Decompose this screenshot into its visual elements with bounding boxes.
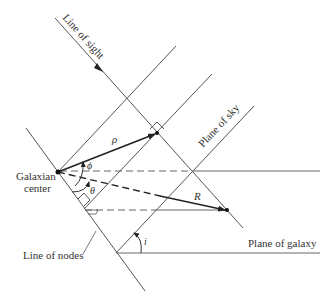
line-of-nodes-leader [83,231,96,254]
R-label: R [193,190,201,202]
R-vector-solid [160,196,225,210]
galaxian-center-label-line2: center [24,182,51,194]
sky-parallel-line-2 [84,74,212,209]
galaxian-center-dot [56,170,61,175]
diagram-canvas: Line of sight Plane of sky Galaxian cent… [0,0,336,308]
line-of-sight-label: Line of sight [61,11,108,61]
rho-label: ρ [111,133,117,145]
rho-endpoint-dot [155,131,159,135]
sky-parallel-line-1 [58,46,176,172]
plane-of-sky-label: Plane of sky [196,101,242,149]
galaxian-center-label-line1: Galaxian [16,170,56,182]
plane-of-sky-line [116,106,254,253]
right-angle-marker-rho [150,122,164,129]
rho-vector [58,134,155,172]
i-arc [134,233,141,253]
theta-label: θ [90,185,95,196]
galaxy-geometry-diagram: Line of sight Plane of sky Galaxian cent… [0,0,336,308]
theta-arc [72,182,89,192]
i-label: i [144,236,147,247]
phi-label: ϕ [87,160,92,171]
line-of-nodes-label: Line of nodes [23,249,83,261]
R-endpoint-dot [225,208,229,212]
plane-of-galaxy-label: Plane of galaxy [248,237,317,249]
line-of-sight-arrowhead [94,63,103,72]
